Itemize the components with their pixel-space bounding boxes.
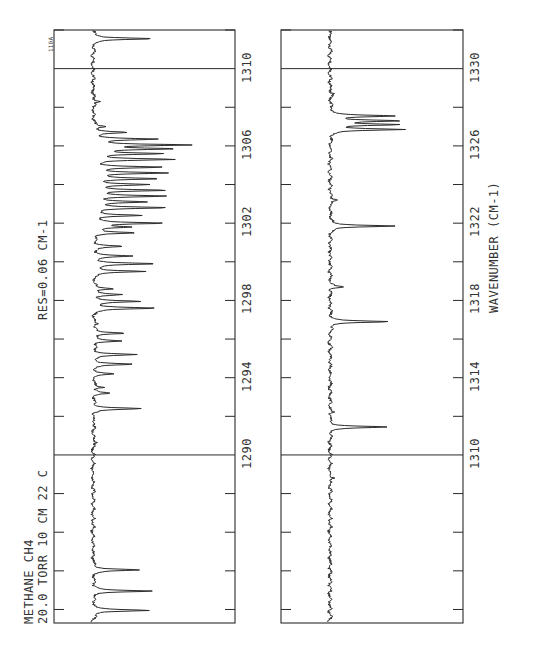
panel-frame xyxy=(54,30,235,623)
tick-label: 1310 xyxy=(468,438,482,469)
tick-label: 1290 xyxy=(240,438,254,469)
panel-frame xyxy=(281,30,463,623)
panel-lower-range xyxy=(54,30,235,623)
tick-label: 1314 xyxy=(468,361,482,392)
tick-label: 1318 xyxy=(468,284,482,315)
tick-label: 1322 xyxy=(468,206,482,237)
tick-label: 1306 xyxy=(240,129,254,160)
tick-label: 1294 xyxy=(240,361,254,392)
spectrum-trace xyxy=(91,31,193,622)
resolution-annotation: RES=0.06 CM-1 xyxy=(36,220,50,320)
spectrum-trace xyxy=(327,31,405,622)
panel-upper-range xyxy=(281,30,463,623)
tick-label: 1326 xyxy=(468,129,482,160)
tick-label: 1330 xyxy=(468,52,482,83)
tick-label: 1302 xyxy=(240,206,254,237)
spectrum-chart xyxy=(0,0,551,658)
plate-id-label: 110A xyxy=(47,37,54,52)
header-line2: 20.0 TORR 10 CM 22 C xyxy=(36,470,50,625)
tick-label: 1310 xyxy=(240,52,254,83)
tick-label: 1298 xyxy=(240,284,254,315)
header-line1: METHANE CH4 xyxy=(22,539,36,624)
x-axis-label: WAVENUMBER (CM-1) xyxy=(487,182,501,313)
